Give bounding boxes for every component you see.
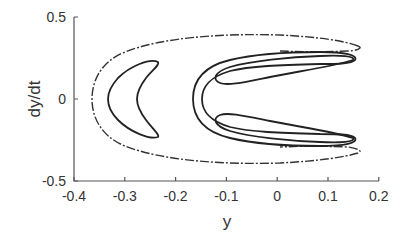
y-tick-label: -0.5 (42, 173, 66, 189)
y-tick-label: 0 (58, 91, 66, 107)
x-tick-label: -0.4 (62, 188, 86, 204)
x-tick-label: -0.2 (164, 188, 188, 204)
outer-dash-dot-orbit (92, 35, 360, 164)
axes (74, 17, 379, 181)
x-tick-label: 0 (273, 188, 281, 204)
phase-portrait-chart: 0.5 0 -0.5 -0.4 -0.3 -0.2 -0.1 0 0.1 0.2… (0, 0, 405, 250)
y-tick-label: 0.5 (47, 9, 67, 25)
chart-canvas: 0.5 0 -0.5 -0.4 -0.3 -0.2 -0.1 0 0.1 0.2… (0, 0, 405, 250)
x-tick-label: 0.2 (369, 188, 389, 204)
crescent-orbit (108, 61, 158, 138)
axis-lines (74, 17, 379, 181)
x-tick-label: 0.1 (318, 188, 338, 204)
x-axis-label: y (223, 212, 232, 231)
y-axis-label: dy/dt (25, 80, 44, 117)
x-tick-label: -0.1 (214, 188, 238, 204)
x-tick-label: -0.3 (113, 188, 137, 204)
